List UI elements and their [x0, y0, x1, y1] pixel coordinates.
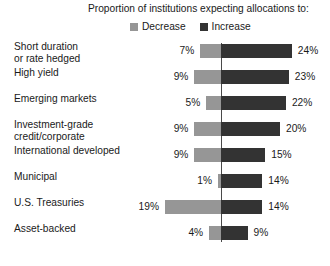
category-label: High yield — [14, 67, 142, 79]
value-label-increase: 9% — [254, 226, 269, 240]
bar-increase — [221, 70, 289, 84]
bar-decrease — [194, 148, 221, 162]
chart-row: Asset-backed4%9% — [0, 223, 330, 249]
chart-legend: Decrease Increase — [130, 21, 251, 32]
category-label: International developed — [14, 145, 142, 157]
value-label-decrease: 19% — [113, 200, 159, 214]
category-label: Short duration or rate hedged — [14, 41, 142, 64]
legend-item-increase: Increase — [200, 21, 251, 32]
legend-swatch-decrease-icon — [130, 23, 138, 31]
bar-increase — [221, 96, 286, 110]
bar-decrease — [209, 226, 221, 240]
value-label-increase: 15% — [271, 148, 291, 162]
chart-row: U.S. Treasuries19%14% — [0, 197, 330, 223]
legend-label-increase: Increase — [212, 21, 251, 32]
chart-row: Emerging markets5%22% — [0, 93, 330, 119]
value-label-decrease: 5% — [154, 96, 200, 110]
legend-item-decrease: Decrease — [130, 21, 186, 32]
chart-title: Proportion of institutions expecting all… — [88, 3, 328, 15]
value-label-increase: 22% — [292, 96, 312, 110]
value-label-decrease: 9% — [142, 148, 188, 162]
value-label-increase: 24% — [298, 44, 318, 58]
value-label-decrease: 9% — [142, 70, 188, 84]
legend-label-decrease: Decrease — [142, 21, 186, 32]
value-label-decrease: 4% — [157, 226, 203, 240]
value-label-decrease: 7% — [148, 44, 194, 58]
legend-swatch-increase-icon — [200, 23, 208, 31]
category-label: Emerging markets — [14, 93, 142, 105]
value-label-increase: 23% — [295, 70, 315, 84]
bar-increase — [221, 200, 262, 214]
chart-plot-area: Short duration or rate hedged7%24%High y… — [0, 41, 330, 263]
bar-decrease — [200, 44, 221, 58]
bar-decrease — [194, 122, 221, 136]
chart-row: Municipal1%14% — [0, 171, 330, 197]
diverging-bar-chart: Proportion of institutions expecting all… — [0, 0, 330, 266]
bar-increase — [221, 148, 265, 162]
category-label: Municipal — [14, 171, 142, 183]
bar-increase — [221, 44, 292, 58]
bar-decrease — [165, 200, 221, 214]
bar-increase — [221, 174, 262, 188]
category-label: Asset-backed — [14, 223, 142, 235]
value-label-increase: 20% — [286, 122, 306, 136]
value-label-increase: 14% — [268, 174, 288, 188]
bar-decrease — [206, 96, 221, 110]
chart-row: Short duration or rate hedged7%24% — [0, 41, 330, 67]
bar-decrease — [194, 70, 221, 84]
value-label-decrease: 9% — [142, 122, 188, 136]
value-label-decrease: 1% — [166, 174, 212, 188]
chart-row: International developed9%15% — [0, 145, 330, 171]
bar-increase — [221, 122, 280, 136]
chart-row: High yield9%23% — [0, 67, 330, 93]
category-label: Investment-grade credit/corporate — [14, 119, 142, 142]
chart-row: Investment-grade credit/corporate9%20% — [0, 119, 330, 145]
bar-increase — [221, 226, 248, 240]
value-label-increase: 14% — [268, 200, 288, 214]
